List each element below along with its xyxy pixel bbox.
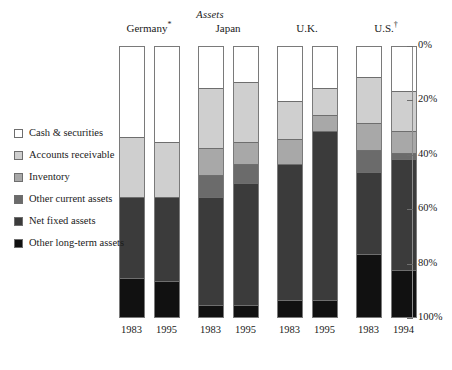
bar-segment (199, 148, 223, 175)
y-axis-tick (407, 46, 413, 47)
bar-segment (357, 47, 381, 77)
legend-item-label: Other long-term assets (29, 238, 124, 249)
legend-swatch-icon (14, 239, 23, 248)
bar-segment (155, 197, 179, 281)
bar-segment (357, 254, 381, 318)
y-axis-tick-label: 100% (418, 311, 443, 322)
bar-segment (278, 300, 302, 318)
y-axis-tick (407, 264, 413, 265)
bar-segment (199, 305, 223, 318)
bar-segment (278, 101, 302, 139)
y-axis-tick (407, 100, 413, 101)
year-label-row: 19831995198319951983199519831994 (131, 324, 408, 340)
bar-segment (234, 142, 258, 164)
y-axis-tick (407, 209, 413, 210)
bar-segment (199, 197, 223, 306)
y-axis-tick-label: 20% (418, 93, 437, 104)
stacked-bar (312, 46, 338, 318)
y-axis-tick-label: 40% (418, 148, 437, 159)
legend-swatch-icon (14, 195, 23, 204)
legend-item-label: Net fixed assets (29, 216, 95, 227)
y-axis-tick (407, 318, 413, 319)
group-label-text: U.S. (374, 22, 394, 34)
group-label-germany: Germany* (104, 22, 194, 34)
bar-segment (234, 164, 258, 183)
bar-segment (234, 305, 258, 318)
group-label-japan: Japan (183, 22, 273, 34)
bar-segment (313, 115, 337, 131)
bar-segment (199, 47, 223, 88)
bar-segment (155, 47, 179, 142)
group-label-uk: U.K. (262, 22, 352, 34)
year-label: 1995 (145, 324, 189, 335)
chart-title: Assets (0, 9, 452, 20)
bar-segment (120, 278, 144, 318)
legend-swatch-icon (14, 173, 23, 182)
chart-title-text: Assets (196, 9, 223, 20)
legend-item: Other long-term assets (14, 232, 132, 254)
legend-item-label: Other current assets (29, 194, 112, 205)
bar-segment (313, 88, 337, 115)
group-label-marker: * (167, 20, 171, 29)
bar-segment (155, 281, 179, 318)
bar-segment (357, 123, 381, 150)
stacked-bar (198, 46, 224, 318)
year-label: 1995 (224, 324, 268, 335)
legend-swatch-icon (14, 151, 23, 160)
stacked-bar (356, 46, 382, 318)
stacked-bar (154, 46, 180, 318)
legend-item: Net fixed assets (14, 210, 132, 232)
bar-segment (199, 88, 223, 148)
chart-legend: Cash & securitiesAccounts receivableInve… (14, 122, 132, 254)
group-label-text: U.K. (296, 22, 317, 34)
plot-area (131, 46, 408, 318)
legend-item-label: Cash & securities (29, 128, 103, 139)
legend-item: Accounts receivable (14, 144, 132, 166)
bar-segment (278, 139, 302, 163)
bar-segment (357, 150, 381, 172)
bar-segment (155, 142, 179, 196)
bar-segment (313, 47, 337, 88)
bar-segment (313, 300, 337, 318)
group-label-marker: † (394, 20, 398, 29)
bar-segment (357, 77, 381, 123)
legend-swatch-icon (14, 217, 23, 226)
legend-item: Cash & securities (14, 122, 132, 144)
bar-segment (199, 175, 223, 197)
group-label-text: Germany (127, 22, 168, 34)
chart-figure: Assets Germany*JapanU.K.U.S.† 0%20%40%60… (0, 0, 452, 370)
y-axis-tick-label: 60% (418, 202, 437, 213)
y-axis-tick-label: 80% (418, 257, 437, 268)
legend-swatch-icon (14, 129, 23, 138)
stacked-bar (233, 46, 259, 318)
group-label-us: U.S.† (341, 22, 431, 34)
bar-segment (234, 183, 258, 305)
legend-item: Inventory (14, 166, 132, 188)
y-axis-line (412, 46, 413, 318)
year-label: 1994 (382, 324, 426, 335)
y-axis-tick-label: 0% (418, 39, 432, 50)
bar-segment (313, 131, 337, 300)
stacked-bar (277, 46, 303, 318)
bar-segment (278, 47, 302, 101)
legend-item: Other current assets (14, 188, 132, 210)
bar-segment (234, 47, 258, 82)
bar-segment (278, 164, 302, 300)
legend-item-label: Inventory (29, 172, 70, 183)
year-label: 1995 (303, 324, 347, 335)
bar-segment (357, 172, 381, 254)
y-axis-tick (407, 155, 413, 156)
bar-segment (234, 82, 258, 142)
legend-item-label: Accounts receivable (29, 150, 114, 161)
group-label-text: Japan (215, 22, 240, 34)
group-label-row: Germany*JapanU.K.U.S.† (131, 22, 408, 38)
